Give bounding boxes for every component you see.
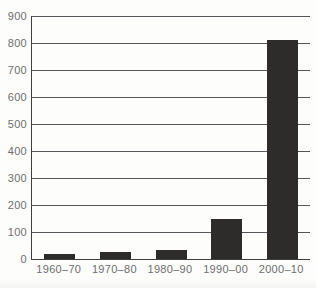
y-tick-label-900: 900 — [0, 10, 27, 22]
bar-1980-90 — [156, 250, 187, 259]
bar-1990-00 — [211, 219, 242, 260]
x-tick-label-1990-00: 1990–00 — [203, 263, 248, 275]
bar-1970-80 — [100, 252, 131, 259]
y-tick-label-500: 500 — [0, 118, 27, 130]
y-tick-label-300: 300 — [0, 172, 27, 184]
x-tick-label-2000-10: 2000–10 — [259, 263, 304, 275]
y-tick-label-600: 600 — [0, 91, 27, 103]
x-tick-label-1970-80: 1970–80 — [92, 263, 137, 275]
plot-area — [31, 16, 310, 260]
y-tick-label-400: 400 — [0, 145, 27, 157]
y-axis-labels: 0100200300400500600700800900 — [0, 16, 27, 259]
gridline-900 — [32, 16, 310, 17]
y-tick-label-0: 0 — [0, 253, 27, 265]
y-tick-label-700: 700 — [0, 64, 27, 76]
y-tick-label-200: 200 — [0, 199, 27, 211]
x-axis-labels: 1960–701970–801980–901990–002000–10 — [31, 263, 309, 279]
x-tick-label-1960-70: 1960–70 — [36, 263, 81, 275]
y-tick-label-800: 800 — [0, 37, 27, 49]
x-tick-label-1980-90: 1980–90 — [148, 263, 193, 275]
scan-shade — [0, 278, 316, 288]
bar-1960-70 — [44, 254, 75, 259]
bar-chart: 0100200300400500600700800900 1960–701970… — [0, 0, 316, 288]
bar-2000-10 — [267, 40, 298, 259]
y-tick-label-100: 100 — [0, 226, 27, 238]
